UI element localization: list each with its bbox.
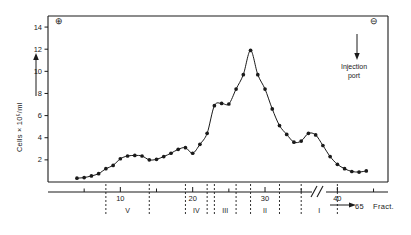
data-point-37 [314,133,318,137]
data-point-41 [343,167,347,171]
x-tick-label-30: 30 [261,194,269,203]
x-tick-label-20: 20 [189,194,197,203]
polarity-minus-icon: ⊖ [370,17,378,26]
injection-port-line2: port [326,71,382,80]
y-tick-label-10: 10 [34,67,42,76]
data-point-19 [184,146,188,150]
data-point-33 [285,133,289,137]
data-point-26 [234,87,238,91]
data-point-18 [176,148,180,152]
data-point-10 [118,157,122,161]
fraction-end-value: 65 [355,203,364,211]
band-label-II: II [263,207,267,214]
data-point-32 [278,124,282,128]
polarity-plus-icon: ⊕ [55,17,63,26]
data-point-9 [111,164,115,168]
data-point-29 [256,73,260,77]
data-point-24 [220,102,224,106]
figure-root: Cells × 10⁵/ml 246810121410203040VIVIIII… [0,0,411,235]
data-point-39 [328,155,332,159]
data-point-43 [357,170,361,174]
data-point-21 [198,143,202,147]
data-point-42 [350,170,354,174]
data-point-28 [249,48,253,52]
y-tick-label-12: 12 [34,45,42,54]
y-tick-label-2: 2 [38,155,42,164]
band-label-I: I [318,207,320,214]
data-point-38 [321,144,325,148]
data-point-20 [191,151,195,155]
data-point-35 [299,139,303,143]
data-point-36 [307,131,311,135]
data-point-11 [126,154,130,158]
data-point-13 [140,154,144,158]
y-tick-label-4: 4 [38,133,42,142]
band-label-III: III [222,207,228,214]
data-point-12 [133,154,137,158]
injection-port-annotation: Injection port [326,62,382,81]
data-point-23 [213,104,217,108]
injection-arrow-head [354,53,359,60]
band-label-V: V [125,207,130,214]
data-point-27 [241,73,245,77]
data-point-14 [147,158,151,162]
data-point-31 [270,107,274,111]
y-tick-label-8: 8 [38,89,42,98]
data-point-34 [292,140,296,144]
data-point-5 [82,176,86,180]
data-point-30 [263,87,267,91]
data-point-17 [169,151,173,155]
data-point-15 [155,157,159,161]
data-point-44 [364,169,368,173]
y-axis-arrow-head [33,53,39,60]
data-point-25 [227,102,231,106]
data-point-8 [104,167,108,171]
data-point-40 [336,162,340,166]
y-tick-label-14: 14 [34,23,42,32]
y-tick-label-6: 6 [38,111,42,120]
band-label-IV: IV [193,207,200,214]
data-point-4 [75,176,79,180]
axis-break-slash-2 [317,186,323,197]
data-point-22 [205,131,209,135]
injection-port-line1: Injection [326,62,382,71]
data-point-16 [162,155,166,159]
data-point-7 [97,172,101,176]
chart-canvas: 246810121410203040VIVIIIIII [0,0,411,235]
fraction-unit-label: Fract. [373,203,394,211]
x-tick-label-10: 10 [116,194,124,203]
data-point-6 [90,174,94,178]
